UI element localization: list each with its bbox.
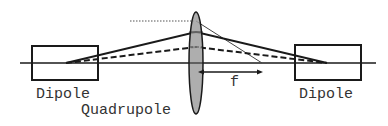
beam-optics-diagram: Dipole Quadrupole f Dipole bbox=[0, 0, 388, 126]
focusing-ray bbox=[196, 21, 262, 63]
left-dipole-label: Dipole bbox=[36, 86, 90, 103]
quadrupole-label: Quadrupole bbox=[81, 102, 171, 119]
focal-length-label: f bbox=[230, 74, 239, 91]
arrowhead-right-icon bbox=[257, 70, 263, 75]
right-dipole-label: Dipole bbox=[299, 86, 353, 103]
